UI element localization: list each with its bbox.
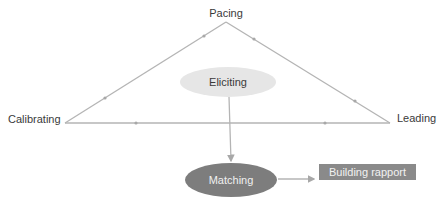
marker-dot xyxy=(103,96,106,99)
node-matching: Matching xyxy=(185,163,277,197)
node-matching-label: Matching xyxy=(209,175,254,186)
node-eliciting: Eliciting xyxy=(180,67,276,97)
node-eliciting-label: Eliciting xyxy=(209,77,247,88)
node-building-rapport-label: Building rapport xyxy=(329,167,406,178)
node-building-rapport: Building rapport xyxy=(319,164,416,180)
label-pacing: Pacing xyxy=(209,8,243,19)
marker-dot xyxy=(134,121,137,124)
marker-dot xyxy=(252,37,255,40)
label-calibrating: Calibrating xyxy=(8,114,61,125)
marker-dot xyxy=(323,121,326,124)
label-leading: Leading xyxy=(397,113,436,124)
marker-dot xyxy=(202,34,205,37)
arrow-eliciting-matching xyxy=(229,97,231,161)
marker-dot xyxy=(353,99,356,102)
